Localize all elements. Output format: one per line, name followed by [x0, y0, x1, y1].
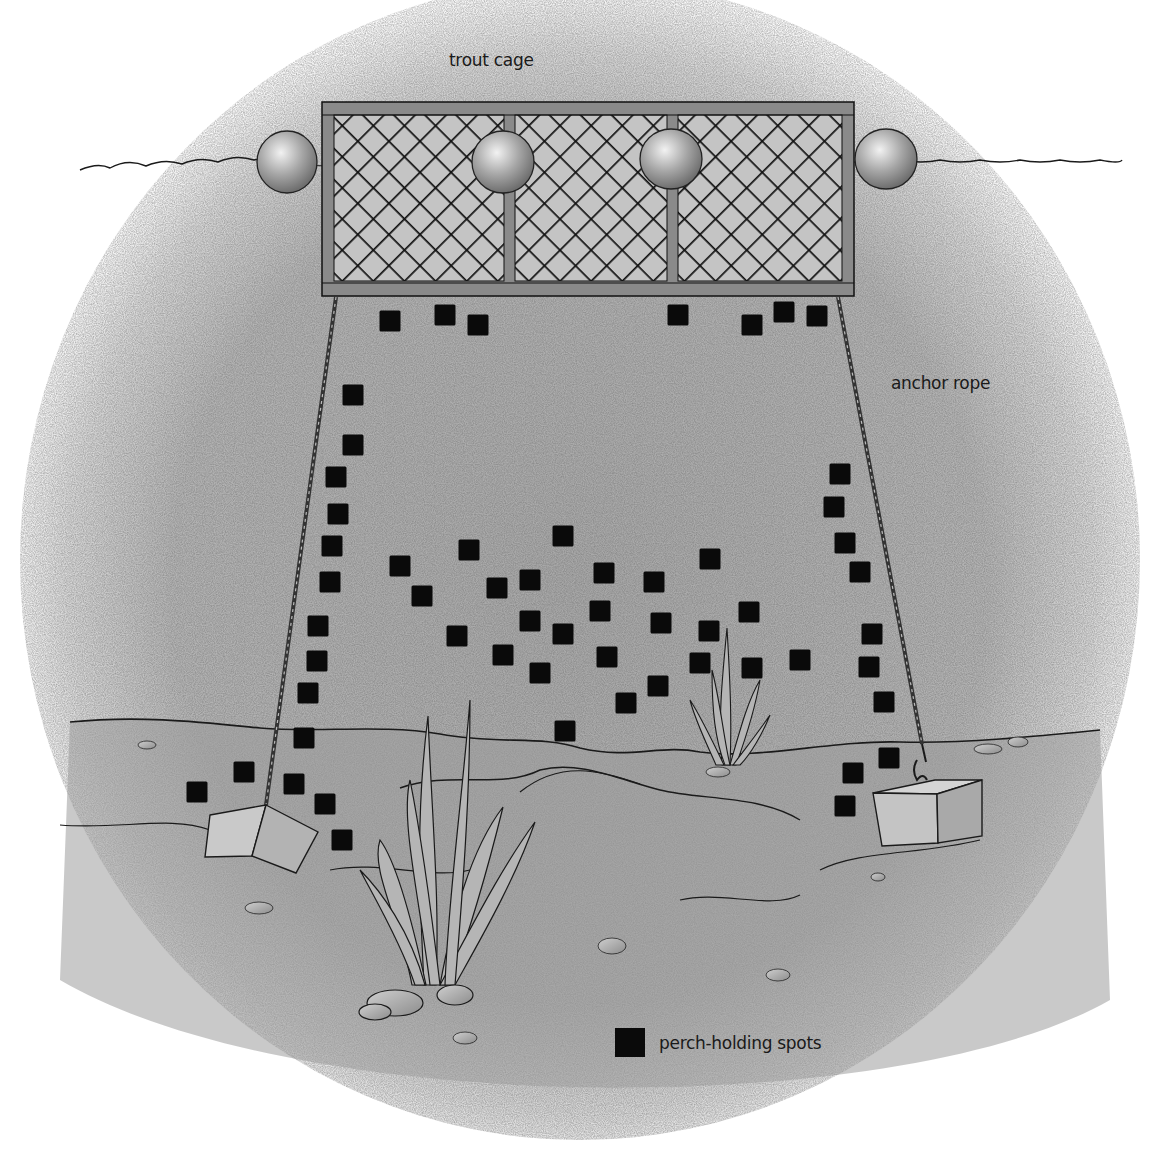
perch-spot-marker [774, 302, 795, 323]
perch-spot-marker [332, 830, 353, 851]
anchor-rope-label: anchor rope [891, 373, 990, 393]
perch-spot-marker [187, 782, 208, 803]
trout-cage [322, 102, 854, 296]
perch-spot-marker [859, 657, 880, 678]
perch-spot-marker [862, 624, 883, 645]
legend-label: perch-holding spots [659, 1033, 821, 1053]
perch-spot-marker [644, 572, 665, 593]
perch-spot-marker [824, 497, 845, 518]
perch-spot-marker [459, 540, 480, 561]
perch-spot-marker [520, 570, 541, 591]
perch-spot-marker [553, 624, 574, 645]
perch-spot-marker [308, 616, 329, 637]
perch-spot-marker [294, 728, 315, 749]
perch-spot-marker [739, 602, 760, 623]
perch-spot-marker [616, 693, 637, 714]
perch-spot-marker [668, 305, 689, 326]
perch-spot-marker [315, 794, 336, 815]
perch-spot-marker [553, 526, 574, 547]
perch-spot-marker [742, 315, 763, 336]
perch-spot-marker [850, 562, 871, 583]
perch-spot-marker [328, 504, 349, 525]
perch-spot-marker [651, 613, 672, 634]
trout-cage-label: trout cage [449, 50, 534, 70]
perch-spot-marker [700, 549, 721, 570]
perch-spot-marker [307, 651, 328, 672]
perch-spot-marker [487, 578, 508, 599]
perch-spot-legend-icon [615, 1028, 645, 1057]
perch-spot-marker [690, 653, 711, 674]
perch-spot-marker [555, 721, 576, 742]
perch-spot-marker [590, 601, 611, 622]
perch-spot-marker [320, 572, 341, 593]
perch-spot-marker [594, 563, 615, 584]
perch-spot-marker [699, 621, 720, 642]
perch-spot-marker [412, 586, 433, 607]
perch-spot-marker [326, 467, 347, 488]
lake-bottom [60, 719, 1110, 1088]
perch-spot-marker [530, 663, 551, 684]
perch-spot-marker [343, 385, 364, 406]
perch-spot-marker [322, 536, 343, 557]
perch-spot-marker [234, 762, 255, 783]
perch-spot-marker [493, 645, 514, 666]
perch-spot-marker [298, 683, 319, 704]
perch-spot-marker [879, 748, 900, 769]
perch-spot-marker [390, 556, 411, 577]
perch-cage-illustration [0, 0, 1154, 1159]
perch-spot-marker [843, 763, 864, 784]
perch-spot-marker [648, 676, 669, 697]
perch-spot-marker [807, 306, 828, 327]
perch-spot-marker [835, 533, 856, 554]
perch-spot-marker [835, 796, 856, 817]
perch-spot-marker [742, 658, 763, 679]
perch-spot-marker [468, 315, 489, 336]
perch-spot-marker [830, 464, 851, 485]
perch-spot-marker [284, 774, 305, 795]
perch-spot-marker [874, 692, 895, 713]
perch-spot-marker [447, 626, 468, 647]
perch-spot-marker [520, 611, 541, 632]
perch-spot-marker [343, 435, 364, 456]
perch-spot-marker [380, 311, 401, 332]
perch-spot-marker [597, 647, 618, 668]
perch-spot-marker [790, 650, 811, 671]
legend: perch-holding spots [615, 1028, 821, 1057]
perch-spot-marker [435, 305, 456, 326]
